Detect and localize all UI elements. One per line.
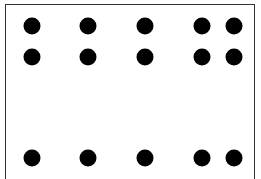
dot [80,150,97,167]
dot [137,18,154,35]
dot [80,18,97,35]
dot [137,49,154,66]
dot-grid-frame [5,4,255,179]
dot [24,18,41,35]
dot [226,49,243,66]
dot [226,18,243,35]
dot [194,18,211,35]
dot [194,49,211,66]
dot [24,49,41,66]
dot [24,150,41,167]
dot [80,49,97,66]
dot [137,150,154,167]
dot [226,150,243,167]
dot [194,150,211,167]
